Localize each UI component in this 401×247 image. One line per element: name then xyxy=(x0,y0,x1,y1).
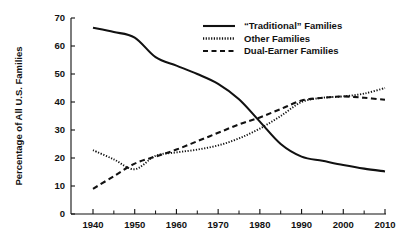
y-axis-title-group: Percentage of All U.S. Families xyxy=(13,46,24,185)
chart-legend: “Traditional” FamiliesOther FamiliesDual… xyxy=(203,20,342,56)
x-tick-label: 1970 xyxy=(208,219,229,230)
y-tick-label: 50 xyxy=(54,68,65,79)
legend-item-1[interactable]: Other Families xyxy=(203,33,310,44)
x-tick-label: 1980 xyxy=(249,219,270,230)
x-tick-label: 1940 xyxy=(82,219,103,230)
legend-label: Dual-Earner Families xyxy=(244,45,339,56)
y-tick-label: 0 xyxy=(60,208,65,219)
y-tick-label: 20 xyxy=(54,152,65,163)
x-tick-label: 2000 xyxy=(333,219,354,230)
y-tick-label: 70 xyxy=(54,12,65,23)
legend-item-2[interactable]: Dual-Earner Families xyxy=(203,45,339,56)
legend-label: Other Families xyxy=(244,33,310,44)
y-axis-ticks: 010203040506070 xyxy=(54,12,75,219)
series-line-2 xyxy=(93,96,385,188)
series-group xyxy=(93,28,385,189)
y-tick-label: 60 xyxy=(54,40,65,51)
line-chart: Percentage of All U.S. Families 01020304… xyxy=(0,0,401,247)
x-tick-label: 1960 xyxy=(166,219,187,230)
legend-item-0[interactable]: “Traditional” Families xyxy=(203,20,342,31)
x-tick-label: 1990 xyxy=(291,219,312,230)
x-axis-ticks: 19401950196019701980199020002010 xyxy=(82,209,395,230)
y-tick-label: 40 xyxy=(54,96,65,107)
x-tick-label: 2010 xyxy=(374,219,395,230)
x-tick-label: 1950 xyxy=(124,219,145,230)
chart-container: Percentage of All U.S. Families 01020304… xyxy=(0,0,401,247)
legend-label: “Traditional” Families xyxy=(244,20,342,31)
y-tick-label: 10 xyxy=(54,180,65,191)
y-axis-title: Percentage of All U.S. Families xyxy=(13,46,24,185)
series-line-0 xyxy=(93,28,385,172)
y-tick-label: 30 xyxy=(54,124,65,135)
